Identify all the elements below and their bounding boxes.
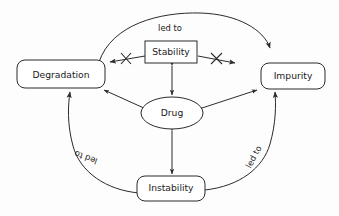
node-instability-label: Instability xyxy=(148,182,194,193)
node-drug-label: Drug xyxy=(161,107,184,118)
edge-label-top-led-to: led to xyxy=(158,23,182,33)
node-instability[interactable]: Instability xyxy=(137,176,205,201)
node-degradation-label: Degradation xyxy=(32,69,89,80)
node-stability[interactable]: Stability xyxy=(145,41,197,63)
edge-label-left-led-to: led to xyxy=(73,149,99,167)
node-degradation[interactable]: Degradation xyxy=(17,60,105,88)
node-impurity-label: Impurity xyxy=(274,70,313,81)
edge-stability-to-impurity-blocked xyxy=(198,56,235,63)
diagram-svg: Degradation Stability Impurity Drug Inst… xyxy=(0,0,339,216)
edge-label-right-led-to: led to xyxy=(244,144,264,170)
node-impurity[interactable]: Impurity xyxy=(261,63,325,89)
edge-drug-degradation xyxy=(104,90,146,109)
node-drug[interactable]: Drug xyxy=(141,97,203,129)
edge-instability-to-degradation-left xyxy=(68,92,139,193)
node-stability-label: Stability xyxy=(152,46,190,57)
edge-instability-to-impurity-right xyxy=(205,92,275,190)
edge-drug-impurity xyxy=(199,90,257,109)
diagram-canvas: Degradation Stability Impurity Drug Inst… xyxy=(0,0,339,216)
